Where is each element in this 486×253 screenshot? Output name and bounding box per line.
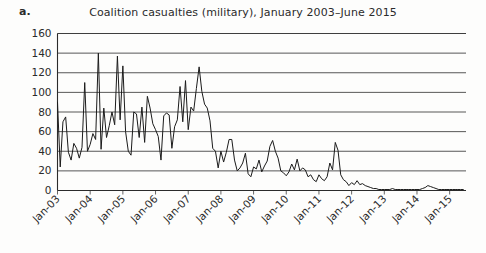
x-tick-label: Jan-10 [258,192,291,225]
series-line [58,53,464,189]
x-tick-label: Jan-09 [225,192,258,225]
x-tick-label: Jan-11 [291,192,324,225]
x-tick-label: Jan-04 [62,192,95,225]
x-tick-label: Jan-05 [95,192,128,225]
x-tick-label: Jan-14 [389,192,422,225]
data-series [58,53,464,189]
y-tick-label: 60 [38,125,51,137]
y-tick-label: 100 [31,86,51,98]
y-tick-label: 140 [31,47,51,59]
y-tick-label: 80 [38,106,51,118]
line-chart: 160140120100806040200 Jan-03Jan-04Jan-05… [0,0,486,253]
y-tick-label: 120 [31,66,51,78]
y-axis-tick-labels: 160140120100806040200 [31,27,51,196]
x-tick-label: Jan-03 [29,192,62,225]
x-axis-tick-labels: Jan-03Jan-04Jan-05Jan-06Jan-07Jan-08Jan-… [29,192,454,225]
y-tick-label: 20 [38,164,51,176]
x-tick-label: Jan-07 [160,192,193,225]
gridlines [58,34,467,171]
x-tick-label: Jan-06 [127,192,160,225]
figure-panel: a. Coalition casualties (military), Janu… [0,0,486,253]
x-tick-label: Jan-15 [421,192,454,225]
y-tick-label: 160 [31,27,51,39]
y-tick-label: 40 [38,145,51,157]
x-tick-label: Jan-13 [356,192,389,225]
x-tick-label: Jan-08 [193,192,226,225]
x-tick-label: Jan-12 [323,192,356,225]
